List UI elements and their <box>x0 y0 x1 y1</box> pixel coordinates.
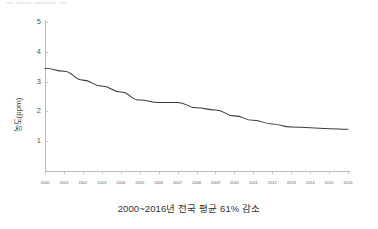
chart-caption: 2000~2016년 전국 평균 61% 감소 <box>0 202 378 216</box>
chart-figure: ▬ ▬▬ ▬▬▬ ▬ 농도(ppm) 12345 200020012002200… <box>0 0 378 229</box>
series-path-concentration <box>45 68 348 129</box>
data-line-series <box>0 0 378 229</box>
